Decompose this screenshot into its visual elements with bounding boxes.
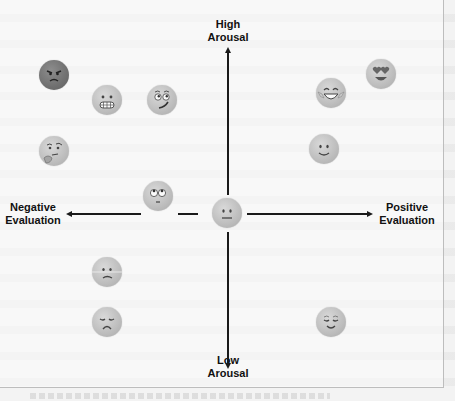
high-arousal-label: High Arousal bbox=[200, 18, 256, 44]
face-with-rolling-eyes-icon bbox=[143, 181, 173, 211]
smiling-face-with-heart-eyes-icon bbox=[366, 59, 396, 89]
grimacing-face-icon bbox=[92, 85, 122, 115]
neutral-face-icon bbox=[212, 198, 242, 228]
evaluation-axis-left bbox=[71, 213, 141, 215]
arousal-axis-upper bbox=[227, 52, 229, 195]
high-arousal-line1: High bbox=[200, 18, 256, 31]
positive-evaluation-line1: Positive bbox=[372, 201, 442, 214]
arrow-down-icon bbox=[225, 363, 231, 369]
evaluation-axis-left-segment bbox=[178, 213, 198, 215]
arousal-axis-lower bbox=[227, 232, 229, 364]
angry-face-icon bbox=[39, 60, 69, 90]
evaluation-axis-right bbox=[247, 213, 367, 215]
negative-evaluation-line2: Evaluation bbox=[0, 214, 66, 227]
negative-evaluation-label: Negative Evaluation bbox=[0, 201, 66, 227]
positive-evaluation-line2: Evaluation bbox=[372, 214, 442, 227]
relieved-face-icon bbox=[316, 307, 346, 337]
high-arousal-line2: Arousal bbox=[200, 31, 256, 44]
confused-face-icon bbox=[92, 257, 122, 287]
woozy-face-icon bbox=[147, 85, 177, 115]
thinking-face-icon bbox=[39, 136, 69, 166]
positive-evaluation-label: Positive Evaluation bbox=[372, 201, 442, 227]
disappointed-face-icon bbox=[92, 307, 122, 337]
figure-caption-faded bbox=[30, 393, 330, 399]
negative-evaluation-line1: Negative bbox=[0, 201, 66, 214]
face-with-tears-of-joy-icon bbox=[316, 78, 346, 108]
arrow-right-icon bbox=[367, 211, 373, 217]
slightly-smiling-face-icon bbox=[309, 134, 339, 164]
